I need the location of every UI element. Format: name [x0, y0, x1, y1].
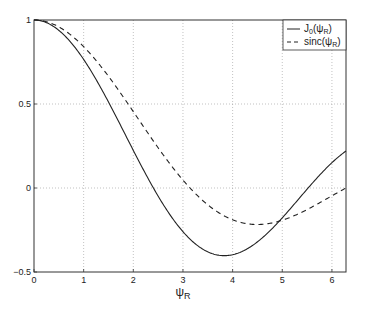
x-axis-ticks: 0123456 — [31, 269, 334, 285]
y-tick-label: 1 — [26, 15, 31, 25]
x-tick-label: 2 — [131, 275, 136, 285]
x-tick-label: 4 — [230, 275, 235, 285]
y-tick-label: 0 — [26, 183, 31, 193]
grid-lines — [34, 20, 346, 272]
x-tick-label: 6 — [329, 275, 334, 285]
x-tick-label: 5 — [280, 275, 285, 285]
series-line-1 — [34, 20, 346, 224]
chart: 0123456 −0.500.51 J0(ψR) sinc(ψR) ψR — [0, 0, 365, 312]
x-axis-label: ψR — [175, 285, 191, 301]
legend: J0(ψR) sinc(ψR) — [283, 20, 346, 50]
plot-frame — [34, 20, 346, 272]
legend-label-j0: J0(ψR) — [304, 23, 332, 35]
y-tick-label: 0.5 — [18, 99, 31, 109]
x-tick-label: 1 — [81, 275, 86, 285]
series-lines — [34, 20, 346, 256]
y-tick-label: −0.5 — [13, 267, 31, 277]
y-axis-ticks: −0.500.51 — [13, 15, 37, 277]
x-tick-label: 3 — [180, 275, 185, 285]
x-tick-label: 0 — [31, 275, 36, 285]
series-line-0 — [34, 20, 346, 256]
